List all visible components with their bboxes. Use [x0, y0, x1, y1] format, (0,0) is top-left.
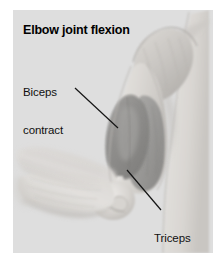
label-biceps-line2: contract [23, 124, 63, 137]
elbow-flexion-figure: Elbow joint flexion Biceps contract Tric… [0, 0, 224, 269]
label-triceps-extend: Triceps extend [154, 207, 191, 253]
label-biceps-contract: Biceps contract [23, 61, 63, 161]
illustration-panel: Elbow joint flexion Biceps contract Tric… [13, 10, 213, 253]
label-triceps-line1: Triceps [154, 232, 191, 245]
label-biceps-line1: Biceps [23, 86, 63, 99]
figure-title: Elbow joint flexion [23, 23, 130, 37]
